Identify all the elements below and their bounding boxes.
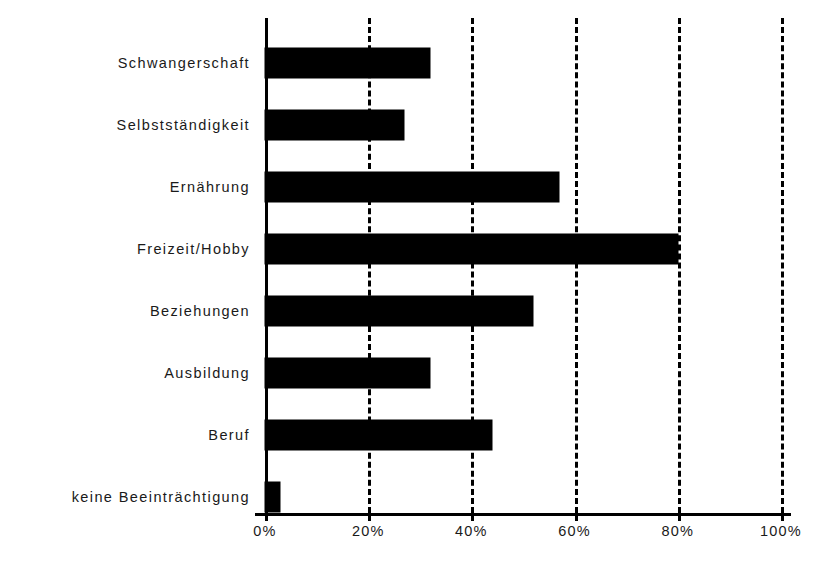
category-label: Beziehungen [150, 280, 250, 342]
tick-label: 20% [352, 523, 385, 539]
tick-label: 80% [661, 523, 694, 539]
category-label: Selbstständigkeit [117, 94, 250, 156]
bar-row [265, 156, 781, 218]
tick-mark [265, 508, 268, 521]
tick-label: 100% [760, 523, 802, 539]
bar-row [265, 32, 781, 94]
bar [265, 296, 533, 326]
x-axis-line [255, 513, 791, 516]
tick-label: 40% [455, 523, 488, 539]
category-label: Ausbildung [164, 342, 250, 404]
category-label: keine Beeinträchtigung [72, 466, 250, 528]
tick-label: 60% [558, 523, 591, 539]
tick-mark [575, 508, 578, 521]
bar-row [265, 342, 781, 404]
bar-row [265, 218, 781, 280]
category-label: Ernährung [170, 156, 250, 218]
tick-label: 0% [253, 523, 276, 539]
bar-chart: SchwangerschaftSelbstständigkeitErnährun… [0, 0, 836, 570]
gridline-100% [781, 18, 784, 513]
bar [265, 358, 430, 388]
tick-mark [368, 508, 371, 521]
plot-area [265, 18, 781, 513]
bar-row [265, 466, 781, 528]
category-axis-labels: SchwangerschaftSelbstständigkeitErnährun… [0, 18, 258, 513]
bar [265, 48, 430, 78]
bar-row [265, 94, 781, 156]
category-label: Freizeit/Hobby [137, 218, 250, 280]
bar [265, 420, 492, 450]
tick-mark [471, 508, 474, 521]
bar-row [265, 404, 781, 466]
category-label: Schwangerschaft [118, 32, 250, 94]
bar [265, 172, 559, 202]
tick-mark [781, 508, 784, 521]
bar-row [265, 280, 781, 342]
tick-mark [678, 508, 681, 521]
bar [265, 234, 678, 264]
bars [265, 18, 781, 513]
category-label: Beruf [208, 404, 250, 466]
bar [265, 110, 404, 140]
